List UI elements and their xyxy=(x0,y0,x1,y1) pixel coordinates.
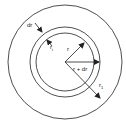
r1-label: r1 xyxy=(99,82,104,90)
ri-label: ri xyxy=(50,44,53,52)
dr-label: dr xyxy=(27,22,32,28)
concentric-circles-diagram: dr r r + dr ri r1 xyxy=(0,0,126,126)
r-plus-dr-label: r + dr xyxy=(73,66,87,72)
dr-arrow xyxy=(35,23,42,32)
r-label: r xyxy=(67,46,69,52)
